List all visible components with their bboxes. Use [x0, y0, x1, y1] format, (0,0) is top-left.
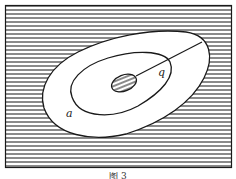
label-a: a — [66, 107, 73, 120]
label-q: q — [158, 66, 165, 79]
contour-diagram: q a — [0, 0, 236, 179]
figure-caption: 图 3 — [0, 172, 236, 179]
